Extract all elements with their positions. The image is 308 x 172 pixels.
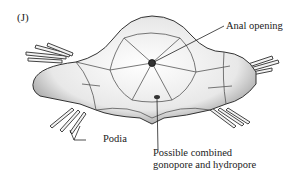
label-podia: Podia	[103, 134, 127, 145]
label-pore-line1: Possible combined	[153, 148, 232, 159]
right-podia-lower	[210, 108, 250, 128]
label-anal-opening: Anal opening	[226, 21, 283, 32]
anal-opening-icon	[149, 60, 156, 67]
label-pore-line2: gonopore and hydropore	[153, 160, 256, 171]
left-podia-lower	[50, 108, 86, 134]
left-podia-upper	[26, 43, 73, 63]
panel-label: (J)	[17, 12, 29, 23]
gonopore-icon	[154, 95, 160, 99]
body-outline	[33, 16, 256, 124]
